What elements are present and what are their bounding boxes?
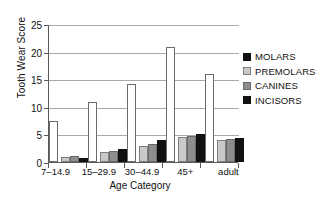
bar-molars <box>166 47 175 162</box>
legend-label: PREMOLARS <box>255 66 316 77</box>
x-axis-tick-labels: 7–14.915–29.930–44.945+adult <box>34 166 250 177</box>
y-axis-tick-label: 25 <box>31 20 42 31</box>
bar-groups <box>49 24 239 162</box>
bar-incisors <box>196 134 205 162</box>
bar-premolars <box>139 146 148 162</box>
x-axis-tick-label: 30–44.9 <box>120 166 163 177</box>
legend-item-molars: MOLARS <box>243 51 316 62</box>
bar-premolars <box>217 140 226 162</box>
bar-group <box>166 24 205 162</box>
y-axis-tick-label: 10 <box>31 102 42 113</box>
tooth-wear-bar-chart: Tooth Wear Score 0510152025 7–14.915–29.… <box>0 0 334 203</box>
legend-label: CANINES <box>255 80 298 91</box>
bar-canines <box>70 156 79 162</box>
legend: MOLARSPREMOLARSCANINESINCISORS <box>243 51 316 106</box>
x-axis-tick-label: adult <box>207 166 250 177</box>
bar-group <box>88 24 127 162</box>
bar-premolars <box>178 137 187 162</box>
bar-group <box>205 24 244 162</box>
legend-swatch-icon <box>243 82 251 90</box>
legend-item-canines: CANINES <box>243 80 316 91</box>
x-axis-tick-label: 15–29.9 <box>77 166 120 177</box>
y-axis-title: Tooth Wear Score <box>16 0 27 123</box>
bar-premolars <box>61 157 70 162</box>
bar-canines <box>148 144 157 162</box>
bar-incisors <box>157 140 166 162</box>
bar-molars <box>88 102 97 162</box>
bar-premolars <box>100 152 109 162</box>
legend-swatch-icon <box>243 67 251 75</box>
bar-molars <box>49 121 58 162</box>
x-axis-tick-label: 45+ <box>164 166 207 177</box>
legend-item-incisors: INCISORS <box>243 95 316 106</box>
x-axis-title: Age Category <box>40 180 240 191</box>
bar-molars <box>127 84 136 162</box>
bar-canines <box>109 151 118 162</box>
legend-label: MOLARS <box>255 51 296 62</box>
y-axis-tick-label: 5 <box>36 130 42 141</box>
legend-item-premolars: PREMOLARS <box>243 66 316 77</box>
bar-incisors <box>79 158 88 162</box>
y-axis-tick-label: 20 <box>31 47 42 58</box>
bar-canines <box>187 136 196 162</box>
bar-molars <box>205 74 214 162</box>
bar-group <box>49 24 88 162</box>
bar-incisors <box>235 138 244 162</box>
plot-area: 0510152025 <box>48 25 238 163</box>
bar-group <box>127 24 166 162</box>
legend-swatch-icon <box>243 53 251 61</box>
y-axis-tick-label: 15 <box>31 75 42 86</box>
x-axis-tick-label: 7–14.9 <box>34 166 77 177</box>
legend-label: INCISORS <box>255 95 302 106</box>
bar-canines <box>226 139 235 162</box>
legend-swatch-icon <box>243 96 251 104</box>
bar-incisors <box>118 149 127 162</box>
